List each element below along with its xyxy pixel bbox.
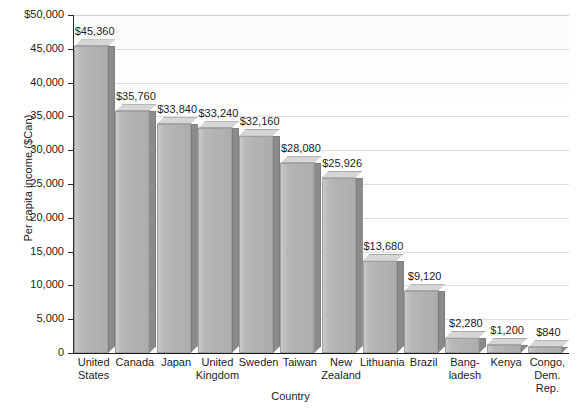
bar <box>280 156 321 353</box>
bar-value-label: $9,120 <box>394 270 455 282</box>
x-axis-label-line: States <box>67 369 120 382</box>
bar-value-label: $25,926 <box>312 157 373 169</box>
bar-top-face <box>528 340 569 347</box>
bar-side-face <box>149 111 156 353</box>
bar-value-label: $28,080 <box>270 142 331 154</box>
y-axis-tick-label: 30,000 <box>6 143 64 155</box>
bar-front-face <box>487 345 521 353</box>
y-axis-tick-label: 20,000 <box>6 211 64 223</box>
bar-value-label: $32,160 <box>229 115 290 127</box>
bar <box>239 129 280 353</box>
y-axis-tick-mark <box>68 116 73 117</box>
bar-value-label: $45,360 <box>64 25 125 37</box>
bar <box>487 338 528 353</box>
x-axis-label-line: ladesh <box>438 369 491 382</box>
x-axis-label-line: Congo, <box>521 356 574 369</box>
bar-front-face <box>198 128 232 353</box>
y-axis-tick-mark <box>68 353 73 354</box>
x-axis-tick-labels: UnitedStatesCanadaJapanUnitedKingdomSwed… <box>73 356 569 412</box>
bar-front-face <box>115 111 149 353</box>
y-axis-tick-mark <box>68 218 73 219</box>
bar-front-face <box>74 46 108 353</box>
y-axis-tick-labels: $50,00045,00040,00035,00030,00025,00020,… <box>6 0 64 414</box>
y-axis-tick-label: 40,000 <box>6 76 64 88</box>
bar-side-face <box>521 345 528 353</box>
plot-area: $45,360$35,760$33,840$33,240$32,160$28,0… <box>73 15 569 353</box>
bar-value-label: $840 <box>518 326 579 338</box>
bar <box>322 171 363 353</box>
bar-front-face <box>280 163 314 353</box>
y-axis-tick-label: 35,000 <box>6 109 64 121</box>
bar-side-face <box>314 163 321 353</box>
bar-side-face <box>479 338 486 353</box>
bar-top-face <box>487 338 528 345</box>
y-axis-tick-mark <box>68 49 73 50</box>
bar-front-face <box>404 291 438 353</box>
y-axis-tick-label: 5,000 <box>6 312 64 324</box>
x-axis-title: Country <box>0 390 581 402</box>
bar-top-face <box>363 254 404 261</box>
bar-front-face <box>322 178 356 353</box>
y-axis-tick-mark <box>68 252 73 253</box>
y-axis-tick-label: 45,000 <box>6 42 64 54</box>
x-axis-line <box>73 353 569 354</box>
bar-side-face <box>232 128 239 353</box>
y-axis-tick-label: 0 <box>6 346 64 358</box>
bar <box>115 104 156 353</box>
bar <box>157 117 198 353</box>
x-axis-label-line: Zealand <box>315 369 368 382</box>
bar-value-label: $35,760 <box>105 90 166 102</box>
bar-front-face <box>363 261 397 353</box>
bars-layer: $45,360$35,760$33,840$33,240$32,160$28,0… <box>74 15 569 353</box>
bar-front-face <box>445 338 479 353</box>
bar-side-face <box>273 136 280 353</box>
bar <box>198 121 239 353</box>
y-axis-tick-mark <box>68 83 73 84</box>
bar-front-face <box>157 124 191 353</box>
y-axis-tick-label: 15,000 <box>6 245 64 257</box>
bar <box>528 340 569 353</box>
y-axis-tick-label: 25,000 <box>6 177 64 189</box>
bar-top-face <box>239 129 280 136</box>
bar <box>363 254 404 353</box>
x-axis-label-line: Kingdom <box>191 369 244 382</box>
bar-top-face <box>404 284 445 291</box>
bar-value-label: $13,680 <box>353 240 414 252</box>
bar-top-face <box>322 171 363 178</box>
x-axis-label-line: Dem. <box>521 369 574 382</box>
y-axis-tick-label: $50,000 <box>6 8 64 20</box>
y-axis-tick-mark <box>68 285 73 286</box>
bar-top-face <box>74 39 115 46</box>
y-axis-tick-mark <box>68 150 73 151</box>
y-axis-tick-mark <box>68 15 73 16</box>
bar-side-face <box>191 124 198 353</box>
bar-chart: Per capita income ($Can) $50,00045,00040… <box>0 0 581 414</box>
y-axis-tick-mark <box>68 319 73 320</box>
bar-side-face <box>356 178 363 353</box>
bar-front-face <box>239 136 273 353</box>
y-axis-tick-label: 10,000 <box>6 278 64 290</box>
bar <box>74 39 115 353</box>
y-axis-tick-mark <box>68 184 73 185</box>
